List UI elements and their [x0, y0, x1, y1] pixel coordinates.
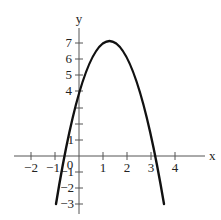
x-tick-label: 3: [148, 160, 155, 175]
y-tick-label: −3: [60, 196, 74, 211]
y-tick-label: 6: [66, 51, 73, 66]
x-tick-label: 1: [100, 160, 107, 175]
y-axis-label: y: [76, 11, 83, 26]
y-tick-label: 7: [66, 35, 73, 50]
x-tick-label: −1: [46, 160, 60, 175]
x-tick-label: −2: [24, 160, 38, 175]
y-tick-label: 4: [66, 83, 73, 98]
x-tick-label: 4: [172, 160, 179, 175]
x-tick-label: 2: [124, 160, 131, 175]
y-tick-label: 5: [66, 67, 73, 82]
parabola-graph: −2 −1 1 2 3 4 0 7 6 5 4 1 −1 −2 −3 x y: [0, 0, 221, 220]
x-axis-label: x: [209, 148, 216, 163]
y-tick-label: −2: [60, 180, 74, 195]
